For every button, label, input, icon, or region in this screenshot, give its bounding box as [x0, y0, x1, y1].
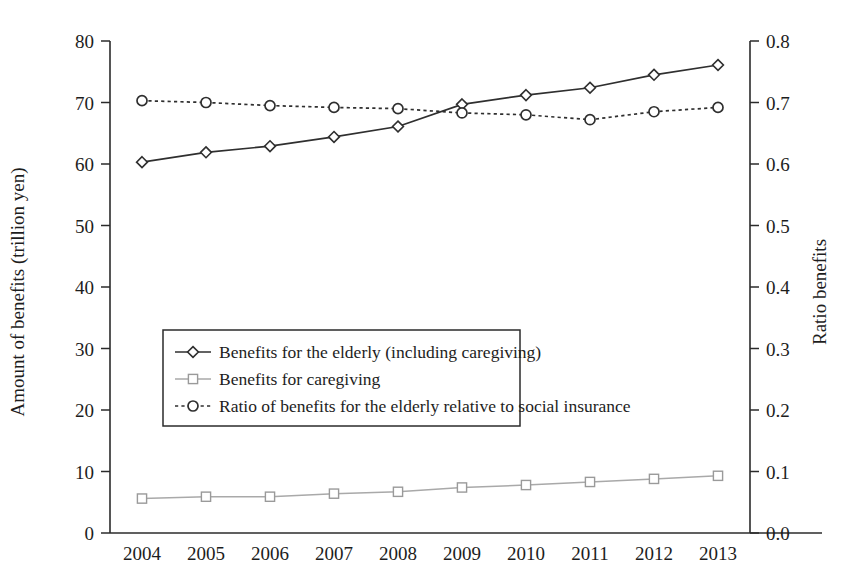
- legend-item-label: Benefits for the elderly (including care…: [219, 342, 541, 362]
- x-axis-tick-label: 2011: [571, 543, 608, 564]
- x-axis-tick-label: 2007: [315, 543, 353, 564]
- legend-item-label: Ratio of benefits for the elderly relati…: [219, 396, 631, 416]
- y-axis-right-tick-label: 0.6: [766, 154, 790, 175]
- y-axis-right-tick-labels: 0.00.10.20.30.40.50.60.70.8: [766, 31, 790, 544]
- data-point-circle: [201, 98, 211, 108]
- data-point-circle: [393, 104, 403, 114]
- x-axis-tick-label: 2009: [443, 543, 481, 564]
- data-point-square: [521, 480, 530, 489]
- y-axis-right-tick-label: 0.4: [766, 277, 790, 298]
- data-point-circle: [521, 110, 531, 120]
- legend-item-label: Benefits for caregiving: [219, 369, 381, 389]
- data-point-square: [265, 492, 274, 501]
- x-axis-tick-label: 2008: [379, 543, 417, 564]
- chart-background: [0, 0, 848, 585]
- x-axis-tick-label: 2005: [187, 543, 225, 564]
- y-axis-left-tick-label: 70: [75, 93, 94, 114]
- legend-item[interactable]: Benefits for the elderly (including care…: [175, 342, 541, 362]
- data-point-square: [329, 489, 338, 498]
- y-axis-left-tick-label: 0: [85, 523, 95, 544]
- y-axis-left-tick-label: 40: [75, 277, 94, 298]
- y-axis-left-tick-label: 30: [75, 339, 94, 360]
- data-point-circle: [329, 102, 339, 112]
- y-axis-left-tick-labels: 01020304050607080: [75, 31, 94, 544]
- data-point-square: [713, 471, 722, 480]
- x-axis-tick-label: 2006: [251, 543, 289, 564]
- data-point-square: [457, 483, 466, 492]
- data-point-square: [393, 487, 402, 496]
- chart-canvas: 01020304050607080 0.00.10.20.30.40.50.60…: [0, 0, 848, 585]
- y-axis-left-tick-label: 10: [75, 462, 94, 483]
- y-axis-right-tick-label: 0.8: [766, 31, 790, 52]
- x-axis-tick-label: 2010: [507, 543, 545, 564]
- y-axis-right-tick-label: 0.0: [766, 523, 790, 544]
- x-axis-tick-label: 2013: [699, 543, 737, 564]
- y-axis-right-tick-label: 0.5: [766, 216, 790, 237]
- y-axis-left-tick-label: 20: [75, 400, 94, 421]
- y-axis-right-tick-label: 0.1: [766, 462, 790, 483]
- data-point-circle: [585, 115, 595, 125]
- legend-item[interactable]: Ratio of benefits for the elderly relati…: [175, 396, 631, 416]
- data-point-circle: [265, 101, 275, 111]
- y-axis-right-title: Ratio benefits: [809, 239, 830, 345]
- x-axis-tick-label: 2012: [635, 543, 673, 564]
- y-axis-right-tick-label: 0.3: [766, 339, 790, 360]
- data-point-square: [649, 474, 658, 483]
- y-axis-left-tick-label: 60: [75, 154, 94, 175]
- data-point-square: [585, 477, 594, 486]
- data-point-square: [201, 492, 210, 501]
- y-axis-right-tick-label: 0.7: [766, 93, 790, 114]
- y-axis-left-title: Amount of benefits (trillion yen): [7, 167, 29, 416]
- data-point-circle: [457, 108, 467, 118]
- data-point-square: [137, 494, 146, 503]
- y-axis-left-tick-label: 50: [75, 216, 94, 237]
- chart-figure: 01020304050607080 0.00.10.20.30.40.50.60…: [0, 0, 848, 585]
- data-point-circle: [713, 102, 723, 112]
- data-point-circle: [137, 96, 147, 106]
- data-point-circle: [649, 107, 659, 117]
- x-axis-tick-label: 2004: [123, 543, 162, 564]
- y-axis-right-tick-label: 0.2: [766, 400, 790, 421]
- data-point-circle: [188, 401, 198, 411]
- y-axis-left-tick-label: 80: [75, 31, 94, 52]
- data-point-square: [188, 374, 197, 383]
